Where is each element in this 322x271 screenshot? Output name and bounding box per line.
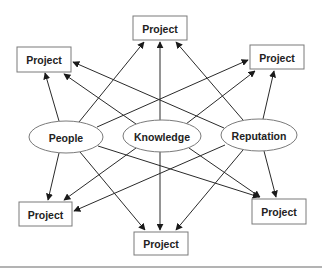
project-node-upper-right: Project — [250, 45, 304, 69]
arrow-reputation-to-top — [176, 42, 243, 120]
arrow-people-to-upper-left — [45, 73, 59, 121]
project-node-lower-right: Project — [252, 199, 306, 224]
arrow-people-to-lower-left — [48, 153, 59, 200]
knowledge-project-diagram: ProjectProjectProjectProjectProjectProje… — [0, 0, 322, 271]
arrow-people-to-bottom — [80, 152, 145, 230]
project-label: Project — [142, 23, 178, 35]
project-node-upper-left: Project — [17, 47, 71, 72]
arrow-knowledge-to-lower-left — [64, 148, 136, 200]
source-node-knowledge: Knowledge — [123, 120, 201, 152]
arrow-reputation-to-lower-right — [264, 151, 276, 197]
source-node-people: People — [29, 121, 103, 153]
source-node-reputation: Reputation — [221, 119, 297, 151]
project-node-bottom: Project — [134, 232, 188, 255]
project-label: Project — [261, 206, 297, 218]
project-node-lower-left: Project — [19, 202, 72, 226]
project-label: Project — [259, 52, 295, 64]
knowledge-label: Knowledge — [134, 131, 190, 143]
arrow-people-to-lower-right — [98, 146, 259, 197]
arrow-reputation-to-upper-right — [263, 71, 274, 119]
project-label: Project — [26, 54, 62, 66]
reputation-label: Reputation — [232, 130, 287, 142]
project-label: Project — [143, 238, 179, 250]
arrow-reputation-to-lower-left — [74, 145, 225, 211]
people-label: People — [49, 132, 84, 144]
source-node-layer: PeopleKnowledgeReputation — [29, 119, 297, 153]
arrow-knowledge-to-upper-left — [64, 74, 136, 124]
project-node-top: Project — [133, 16, 187, 40]
project-label: Project — [28, 209, 64, 221]
